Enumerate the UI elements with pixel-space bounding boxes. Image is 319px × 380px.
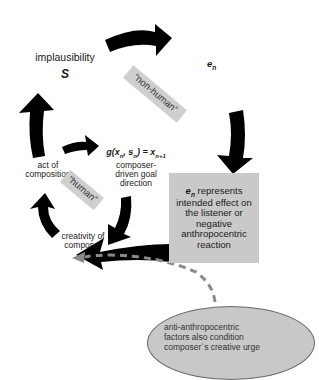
arrow-top-right-icon: [105, 24, 172, 56]
implausibility-text: implausibility: [35, 51, 95, 63]
eq-sub3: n+1: [155, 153, 166, 159]
arrow-left-up-icon: [19, 93, 54, 158]
box-line1: represents: [195, 185, 243, 196]
implausibility-label: implausibility S: [30, 52, 100, 81]
implausibility-symbol: S: [30, 68, 100, 81]
effect-subscript: n: [212, 64, 216, 71]
creativity-line2: composer: [64, 240, 101, 250]
note-line3: composer`s creative urge: [164, 342, 260, 352]
effect-description-box: en represents intended effect on the lis…: [169, 173, 259, 263]
ellipse-note-text: anti-anthropocentric factors also condit…: [164, 323, 294, 352]
box-effect-symbol: en: [186, 185, 195, 196]
box-line5: anthropocentric: [181, 228, 246, 239]
goal-equation: g(xn, sn) = xn+1: [106, 147, 166, 157]
eq-g: g(x: [106, 147, 120, 157]
effect-top-label: en: [207, 59, 216, 72]
note-line1: anti-anthropocentric: [164, 322, 239, 332]
eq-equals: ) = x: [137, 147, 155, 157]
box-line4: negative: [196, 218, 232, 229]
goal-desc-line3: direction: [120, 178, 152, 188]
box-line6: reaction: [197, 239, 231, 250]
creativity-label: creativity of composer: [54, 232, 112, 250]
box-line2: intended effect on: [176, 197, 251, 208]
arrow-right-down-icon: [217, 110, 253, 174]
note-line2: factors also condition: [164, 332, 244, 342]
eq-s: , s: [123, 147, 133, 157]
box-line3: the listener or: [185, 207, 243, 218]
